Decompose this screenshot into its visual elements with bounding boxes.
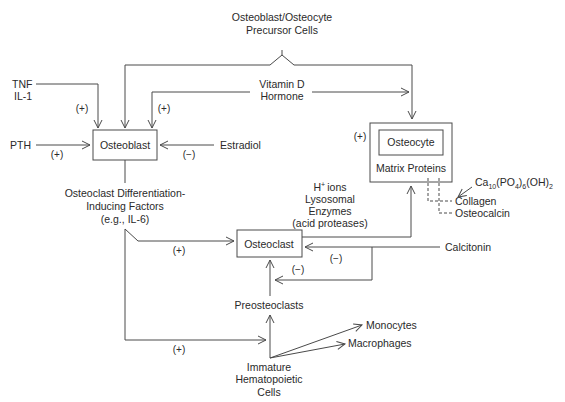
- estradiol-effect-label: (−): [183, 149, 196, 160]
- lysosomal-label: Lysosomal: [305, 193, 355, 205]
- vitamin-d-label: Vitamin D: [259, 78, 305, 90]
- acid-proteases-label: (acid proteases): [292, 217, 367, 229]
- osteocyte-node: Osteocyte Matrix Proteins: [370, 123, 452, 182]
- pth-effect-label: (+): [51, 149, 64, 160]
- differentiation-label-line1: Osteoclast Differentiation-: [65, 187, 186, 199]
- vitd-osteocyte-effect-label: (+): [354, 131, 367, 142]
- mineral-formula: Ca10(PO4)6(OH)2: [475, 176, 553, 190]
- estradiol-label: Estradiol: [220, 139, 261, 151]
- osteocyte-label: Osteocyte: [387, 136, 434, 148]
- hematopoietic-label-line1: Immature: [247, 361, 292, 373]
- factors-to-osteoclast-arrow: [125, 229, 234, 241]
- hematopoietic-node: Immature Hematopoietic Cells: [235, 315, 362, 398]
- osteoclast-node: Osteoclast: [237, 230, 302, 257]
- tnf-label: TNF: [12, 78, 32, 90]
- calcitonin-preosteoclast-effect-label: (−): [292, 264, 305, 275]
- precursor-cells-node: Osteoblast/Osteocyte Precursor Cells: [232, 11, 333, 36]
- hormone-label: Hormone: [260, 90, 303, 102]
- hematopoietic-label-line2: Hematopoietic: [235, 373, 302, 385]
- osteoclast-secretions: H+ions Lysosomal Enzymes (acid proteases…: [292, 181, 411, 237]
- precursor-label-line2: Precursor Cells: [246, 24, 318, 36]
- calcitonin-osteoclast-effect-label: (−): [330, 253, 343, 264]
- differentiation-label-line3: (e.g., IL-6): [101, 213, 149, 225]
- differentiation-factors: Osteoclast Differentiation- Inducing Fac…: [65, 160, 266, 355]
- differentiation-label-line2: Inducing Factors: [86, 200, 164, 212]
- osteocalcin-label: Osteocalcin: [455, 207, 510, 219]
- tnf-il1-factor: TNF IL-1 (+): [12, 78, 98, 128]
- calcitonin-factor: Calcitonin (−) (−): [275, 241, 491, 280]
- bone-remodeling-diagram: Osteoblast/Osteocyte Precursor Cells TNF…: [0, 0, 565, 402]
- diff-osteoclast-effect-label: (+): [173, 245, 186, 256]
- tnf-to-osteoblast-arrow: [36, 84, 98, 128]
- osteoclast-label: Osteoclast: [244, 238, 294, 250]
- hematopoietic-to-macrophages-arrow: [270, 344, 345, 358]
- hydroxyapatite-formula: Ca10(PO4)6(OH)2: [458, 176, 553, 197]
- preosteoclasts-label: Preosteoclasts: [235, 299, 304, 311]
- osteoblast-node: Osteoblast: [93, 130, 157, 160]
- enzymes-label: Enzymes: [308, 205, 351, 217]
- osteoblast-label: Osteoblast: [100, 139, 150, 151]
- estradiol-factor: Estradiol (−): [160, 139, 261, 160]
- hematopoietic-label-line3: Cells: [257, 386, 280, 398]
- pth-factor: PTH (+): [10, 139, 90, 160]
- pth-label: PTH: [10, 139, 31, 151]
- macrophages-label: Macrophages: [348, 337, 412, 349]
- tnf-effect-label: (+): [76, 103, 89, 114]
- matrix-proteins-label: Matrix Proteins: [376, 162, 446, 174]
- collagen-label: Collagen: [455, 195, 497, 207]
- vitd-osteoblast-effect-label: (+): [158, 103, 171, 114]
- calcitonin-label: Calcitonin: [445, 241, 491, 253]
- h-ions-label: H+ions: [314, 181, 347, 193]
- il1-label: IL-1: [14, 90, 32, 102]
- diff-hematopoietic-effect-label: (+): [173, 344, 186, 355]
- monocytes-label: Monocytes: [366, 319, 417, 331]
- precursor-label-line1: Osteoblast/Osteocyte: [232, 11, 333, 23]
